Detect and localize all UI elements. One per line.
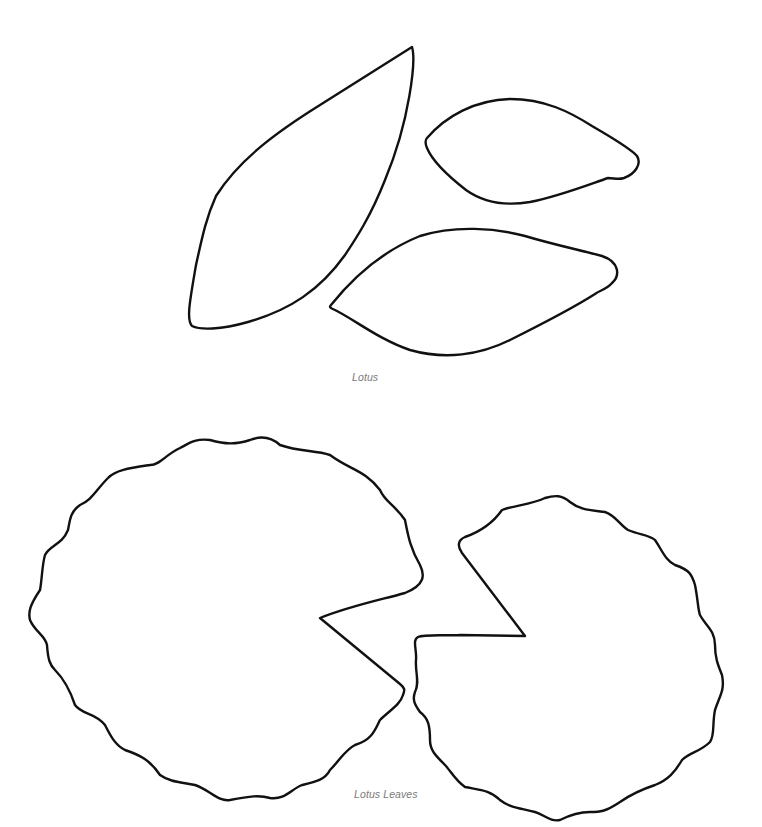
lotus-leaves-caption: Lotus Leaves: [354, 788, 418, 800]
medium-petal-outline: [330, 229, 617, 355]
large-petal-outline: [189, 47, 413, 329]
lotus-caption: Lotus: [352, 371, 378, 383]
lotus-leaves-group: [29, 437, 723, 820]
template-canvas: [0, 0, 762, 827]
small-petal-outline: [426, 99, 639, 204]
lotus-petals-group: [189, 47, 639, 355]
right-lily-pad-outline: [414, 496, 723, 820]
left-lily-pad-outline: [29, 437, 422, 800]
